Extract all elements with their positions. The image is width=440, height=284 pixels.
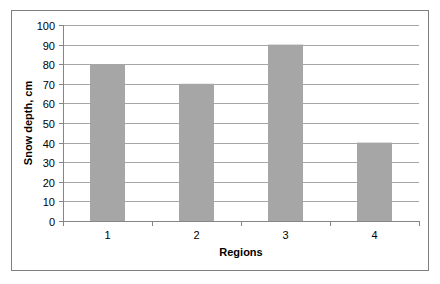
bar-region-4 (357, 143, 392, 221)
bar-region-1 (90, 64, 125, 221)
x-tick-label: 4 (371, 229, 377, 241)
y-tick-label: 100 (37, 20, 55, 32)
x-tick-label: 2 (193, 229, 199, 241)
y-tick-labels: 0102030405060708090100 (37, 20, 55, 228)
x-axis-title: Regions (219, 246, 262, 258)
x-tick-labels: 1234 (104, 229, 377, 241)
y-tick-label: 10 (43, 196, 55, 208)
y-tick-label: 0 (49, 216, 55, 228)
bar-region-3 (268, 45, 303, 221)
y-tick-label: 70 (43, 79, 55, 91)
y-tick-label: 40 (43, 138, 55, 150)
y-tick-label: 80 (43, 59, 55, 71)
y-tick-label: 30 (43, 157, 55, 169)
y-tick-label: 60 (43, 98, 55, 110)
x-tick-label: 3 (282, 229, 288, 241)
bars (90, 45, 392, 221)
y-tick-label: 90 (43, 40, 55, 52)
bar-chart: 0102030405060708090100 1234 Snow depth, … (0, 0, 440, 284)
y-axis-title: Snow depth, cm (22, 81, 34, 166)
y-tick-label: 50 (43, 118, 55, 130)
y-tick-label: 20 (43, 177, 55, 189)
bar-region-2 (179, 84, 214, 221)
x-tick-label: 1 (104, 229, 110, 241)
